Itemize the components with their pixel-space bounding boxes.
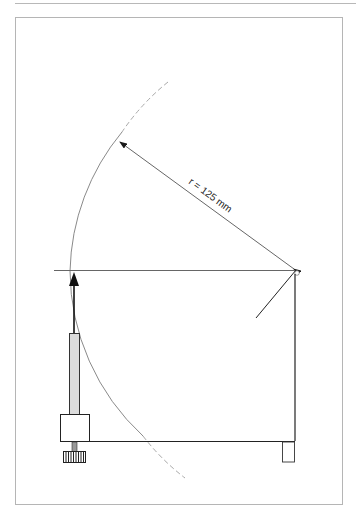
radius-arc-dashed-bottom: [143, 436, 185, 478]
radius-arc-dashed-top: [122, 82, 168, 132]
radius-arc: [70, 132, 143, 436]
diagram-canvas: r = 125 mm: [0, 0, 356, 508]
support-leg: [283, 442, 295, 462]
adjust-knob-stem: [72, 442, 77, 452]
angled-arm: [256, 270, 296, 318]
radius-label: r = 125 mm: [187, 176, 235, 215]
gauge-body: [61, 415, 90, 442]
gauge-column: [70, 334, 80, 415]
adjust-knob-icon: [64, 452, 86, 463]
radius-dimension-line: [120, 142, 294, 269]
